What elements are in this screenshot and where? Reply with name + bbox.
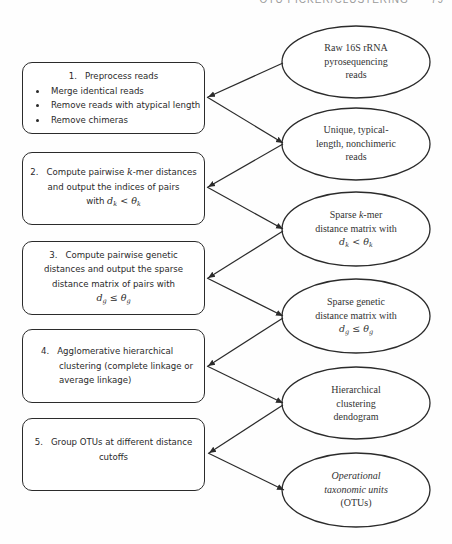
node-dendogram-label: Hierarchical clustering dendogram [291,383,421,424]
text: pyrosequencing [291,55,421,69]
text: Raw 16S rRNA [291,41,421,55]
math-sub: g [126,297,130,305]
condition-math: dg ≤ θg [291,322,421,340]
text: Compute pairwise genetic [65,250,177,260]
text: reads [291,68,421,82]
math-sub: g [369,328,373,336]
text: Sparse genetic [291,295,421,309]
text: Compute pairwise [47,167,127,177]
math-op: ≤ [352,323,360,334]
math-sub: g [345,328,349,336]
step-5-line-1: 5.Group OTUs at different distance [23,435,204,450]
step-2-line-2: and output the indices of pairs [23,180,204,195]
arrow-genetic-to-step4 [208,318,283,366]
text: distance matrix with [291,309,421,323]
step-2-line-3: with dk < θk [23,194,204,212]
math-sub: k [137,200,141,208]
step-1-bullets: Merge identical reads Remove reads with … [23,84,204,128]
step-3-line-3: distance matrix of pairs with [23,277,204,292]
math-sub: k [113,200,117,208]
bullet-item: Merge identical reads [33,84,204,99]
step-2-box: 2.Compute pairwise k-mer distances and o… [22,152,205,225]
text: with [86,196,107,206]
step-1-box: 1.Preprocess reads Merge identical reads… [22,62,205,134]
bullet-item: Remove reads with atypical length [33,98,204,113]
flowchart-page: OTU PICKER/CLUSTERING79 [0,0,452,544]
node-unique-reads-label: Unique, typical- length, nonchimeric rea… [291,123,421,164]
step-5-line-2: cutoffs [23,450,204,465]
text: Sparse [330,209,359,220]
math-sub: k [345,241,349,249]
text: (OTUs) [291,496,421,510]
step-2-line-1: 2.Compute pairwise k-mer distances [23,165,204,180]
arrow-unique-to-step2 [208,144,283,187]
node-otus-label: Operational taxonomic units (OTUs) [291,469,421,510]
arrow-kmer-to-step3 [208,231,283,278]
step-4-box: 4.Agglomerative hierarchical clustering … [22,329,205,403]
condition-math: dk < θk [291,235,421,253]
step-1-title-text: Preprocess reads [85,71,158,81]
step-4-text: 4.Agglomerative hierarchical clustering … [23,344,204,388]
text: -mer distances [133,167,197,177]
step-5-number: 5. [35,435,43,450]
step-2-number: 2. [30,165,38,180]
text: distance matrix with [291,222,421,236]
node-kmer-matrix-label: Sparse k-mer distance matrix with dk < θ… [291,208,421,253]
step-3-box: 3.Compute pairwise genetic distances and… [22,241,205,315]
step-5-box: 5.Group OTUs at different distance cutof… [22,418,205,491]
step-1-number: 1. [69,69,77,84]
node-raw-reads-label: Raw 16S rRNA pyrosequencing reads [291,41,421,82]
text: reads [291,150,421,164]
step-1-title: 1.Preprocess reads [23,69,204,84]
arrows [207,63,284,490]
node-genetic-matrix-label: Sparse genetic distance matrix with dg ≤… [291,295,421,340]
step-3-line-2: distances and output the sparse [23,262,204,277]
text: length, nonchimeric [291,137,421,151]
text: clustering [291,397,421,411]
math-sub: k [369,241,373,249]
arrow-raw-to-step1 [208,63,283,97]
condition-math: dg ≤ θg [96,292,130,303]
text: Group OTUs at different distance [51,437,192,447]
data-node-ellipses [282,26,430,527]
step-3-line-4: dg ≤ θg [23,291,204,309]
text: Unique, typical- [291,123,421,137]
text: -mer [363,209,382,220]
text: clustering (complete linkage or [41,359,204,374]
arrow-step3-to-genetic [207,278,283,316]
arrow-step4-to-dendogram [207,366,283,403]
text: dendogram [291,410,421,424]
step-4-number: 4. [41,344,49,359]
text: Agglomerative hierarchical [57,346,173,356]
math-op: < [120,195,128,206]
math-op: ≤ [110,292,118,303]
math-op: < [352,236,360,247]
text: Hierarchical [291,383,421,397]
step-3-number: 3. [49,248,57,263]
arrow-dendogram-to-step5 [209,405,283,453]
bullet-item: Remove chimeras [33,113,204,128]
arrow-step5-to-otus [208,453,284,490]
condition-math: dk < θk [107,195,141,206]
text: Sparse k-mer [291,208,421,222]
text: taxonomic units [291,483,421,497]
math-sub: g [102,297,106,305]
arrow-step1-to-unique [207,97,283,143]
arrow-step2-to-kmer [207,187,283,229]
text: average linkage) [41,373,204,388]
text: Operational [291,469,421,483]
step-3-line-1: 3.Compute pairwise genetic [23,248,204,263]
